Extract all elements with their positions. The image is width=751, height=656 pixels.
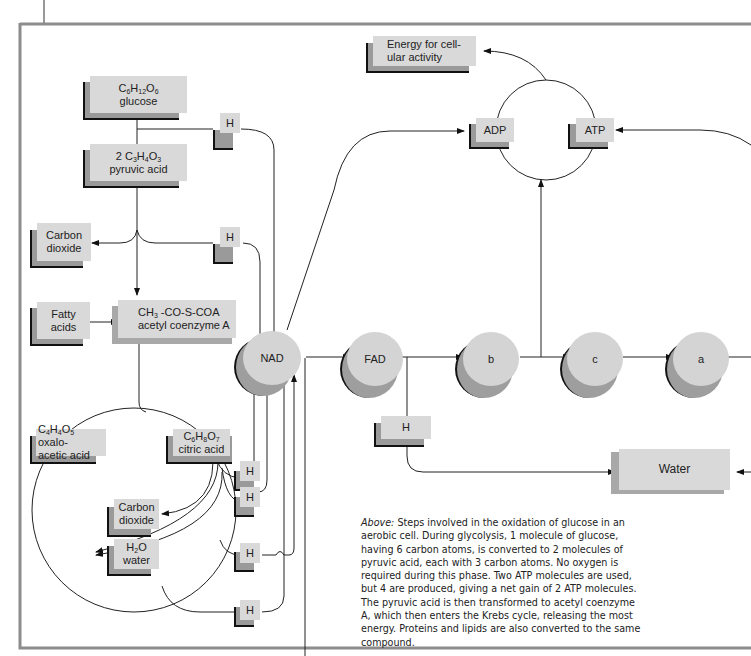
cyt-c-carrier: c — [567, 332, 623, 386]
cyt-a-carrier: a — [673, 332, 729, 386]
water-cycle-box: H2O water — [114, 539, 159, 569]
citric-acid-label: citric acid — [179, 443, 225, 456]
pyruvic-acid-label: pyruvic acid — [109, 163, 167, 176]
h-marker-cycle-2: H — [240, 487, 260, 507]
acetyl-coa-label: acetyl coenzyme A — [138, 319, 230, 332]
h-marker-pyruvate: H — [220, 227, 240, 247]
citric-acid-box: C6H8O7 citric acid — [173, 429, 230, 456]
diagram-canvas: C6H12O6 glucose H 2 C3H4O3 pyruvic acid … — [0, 0, 751, 656]
caption-body: Steps involved in the oxidation of gluco… — [361, 517, 640, 648]
water-final-box: Water — [619, 449, 730, 490]
pyruvic-acid-formula: 2 C3H4O3 — [116, 150, 161, 163]
oxaloacetic-acid-label: acetic acid — [38, 449, 90, 462]
water-cycle-label: water — [123, 554, 150, 567]
fatty-acids-box: Fatty acids — [37, 302, 90, 339]
oxaloacetic-acid-box: C4H4O5 oxalo- acetic acid — [36, 429, 106, 456]
acetyl-coa-formula: CH3 -CO-S-COA — [138, 306, 220, 319]
carbon-dioxide-cycle-box: Carbon dioxide — [114, 499, 159, 529]
h-marker-glycolysis: H — [220, 113, 240, 133]
figure-caption: Above: Steps involved in the oxidation o… — [361, 516, 647, 649]
energy-box: Energy for cell- ular activity — [373, 36, 476, 66]
h-marker-fad: H — [381, 416, 431, 439]
adp-box: ADP — [476, 118, 514, 142]
pyruvic-acid-box: 2 C3H4O3 pyruvic acid — [90, 144, 187, 181]
atp-box: ATP — [576, 118, 614, 142]
citric-acid-formula: C6H8O7 — [183, 430, 219, 443]
glucose-label: glucose — [120, 95, 158, 108]
nad-carrier: NAD — [243, 331, 301, 385]
water-cycle-formula: H2O — [126, 541, 146, 554]
h-marker-shadow — [213, 130, 233, 150]
h-marker-cycle-4: H — [240, 600, 260, 620]
acetyl-coa-box: CH3 -CO-S-COA acetyl coenzyme A — [118, 300, 236, 338]
glucose-box: C6H12O6 glucose — [90, 76, 187, 113]
carbon-dioxide-top-box: Carbon dioxide — [37, 223, 91, 261]
oxaloacetic-acid-formula: C4H4O5 oxalo- — [38, 423, 106, 449]
h-marker-cycle-1: H — [240, 461, 260, 481]
cyt-b-carrier: b — [463, 332, 519, 386]
h-marker-shadow — [213, 244, 233, 264]
h-marker-cycle-3: H — [240, 543, 260, 563]
glucose-formula: C6H12O6 — [118, 82, 158, 95]
caption-lead: Above: — [361, 517, 394, 528]
fad-carrier: FAD — [347, 332, 403, 386]
